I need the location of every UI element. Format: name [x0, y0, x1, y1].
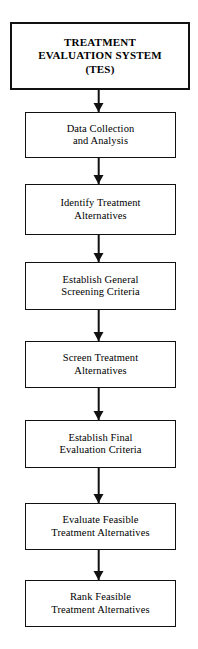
flowchart-node-label: Data Collection and Analysis	[67, 123, 135, 148]
flowchart-node-label: Establish Final Evaluation Criteria	[59, 432, 141, 457]
flowchart-node-label: Rank Feasible Treatment Alternatives	[51, 591, 149, 616]
arrow-head-icon	[94, 103, 104, 112]
arrow-head-icon	[94, 494, 104, 503]
arrow-head-icon	[94, 332, 104, 341]
treatment-evaluation-system-flowchart: TREATMENT EVALUATION SYSTEM (TES) Data C…	[0, 0, 198, 649]
flowchart-node-evaluate-feasible-treatment-alternatives: Evaluate Feasible Treatment Alternatives	[25, 503, 176, 550]
flowchart-node-screen-treatment-alternatives: Screen Treatment Alternatives	[25, 341, 176, 388]
flowchart-node-label: Establish General Screening Criteria	[61, 274, 139, 299]
arrow-root-to-step-1	[99, 90, 100, 112]
flowchart-node-establish-general-screening-criteria: Establish General Screening Criteria	[25, 262, 176, 310]
flowchart-node-label: Evaluate Feasible Treatment Alternatives	[51, 514, 149, 539]
arrow-step-4-to-step-5	[99, 388, 100, 420]
flowchart-node-rank-feasible-treatment-alternatives: Rank Feasible Treatment Alternatives	[25, 580, 176, 627]
arrow-step-5-to-step-6	[99, 468, 100, 503]
arrow-head-icon	[94, 411, 104, 420]
arrow-step-3-to-step-4	[99, 310, 100, 341]
flowchart-node-identify-treatment-alternatives: Identify Treatment Alternatives	[25, 184, 176, 235]
flowchart-node-label: Screen Treatment Alternatives	[63, 352, 138, 377]
arrow-step-6-to-step-7	[99, 550, 100, 580]
arrow-step-1-to-step-2	[99, 158, 100, 184]
flowchart-node-data-collection: Data Collection and Analysis	[25, 112, 176, 158]
arrow-step-2-to-step-3	[99, 235, 100, 262]
flowchart-node-label: Identify Treatment Alternatives	[60, 197, 140, 222]
arrow-head-icon	[94, 571, 104, 580]
arrow-head-icon	[94, 175, 104, 184]
flowchart-node-root-label: TREATMENT EVALUATION SYSTEM (TES)	[38, 36, 162, 76]
flowchart-node-root: TREATMENT EVALUATION SYSTEM (TES)	[10, 22, 190, 90]
flowchart-node-establish-final-evaluation-criteria: Establish Final Evaluation Criteria	[25, 420, 176, 468]
arrow-head-icon	[94, 253, 104, 262]
